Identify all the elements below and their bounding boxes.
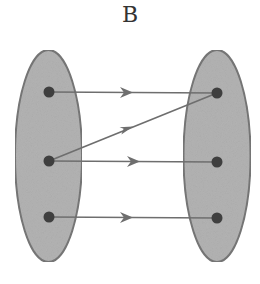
domain-element-1: [44, 87, 55, 98]
arrowhead-icon: [120, 127, 134, 135]
codomain-element-3: [212, 213, 223, 224]
codomain-set-ellipse: [184, 50, 251, 262]
domain-element-2: [44, 156, 55, 167]
mapping-diagram: [0, 0, 260, 284]
codomain-element-2: [212, 157, 223, 168]
domain-element-3: [44, 212, 55, 223]
codomain-element-1: [212, 88, 223, 99]
